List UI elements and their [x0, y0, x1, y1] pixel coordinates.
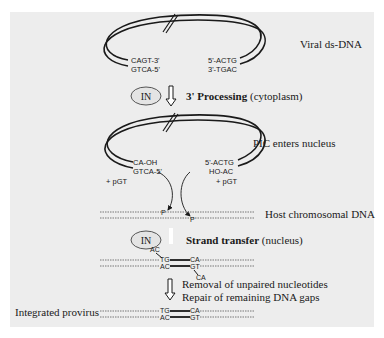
intermediate-viral-strands — [170, 260, 190, 266]
attack-arrow-right — [181, 172, 190, 216]
viral-left-top-seq: CAGT-3' — [131, 56, 160, 65]
phosphate-marker-bottom: P — [190, 216, 195, 223]
integrase-oval-1: IN — [131, 87, 161, 105]
pic-right-bottom-seq: HO-AC — [209, 167, 234, 176]
phosphate-marker-top: P — [161, 209, 166, 216]
step1-title-bold: 3' Processing — [186, 90, 248, 102]
pic-left-top-seq: CA-OH — [133, 158, 157, 167]
step2-title-bold: Strand transfer — [186, 234, 259, 246]
junction-left-top: TG — [160, 256, 170, 263]
junction-right-top: CA — [190, 256, 200, 263]
step3-line1: Removal of unpaired nucleotides — [182, 278, 328, 290]
viral-left-bottom-seq: GTCA-5' — [131, 65, 161, 74]
provirus-left-bottom: AC — [160, 314, 170, 321]
viral-dna-ring — [104, 15, 265, 66]
provirus-right-top: CA — [190, 307, 200, 314]
viral-dna-label: Viral ds-DNA — [300, 38, 362, 50]
step3-line2: Repair of remaining DNA gaps — [182, 291, 319, 303]
step1-title-rest: (cytoplasm) — [247, 90, 303, 103]
provirus-label: Integrated provirus — [15, 306, 99, 318]
provirus-right-bottom: GT — [190, 314, 200, 321]
junction-right-bottom: GT — [190, 263, 200, 270]
viral-right-top-seq: 5'-ACTG — [208, 56, 237, 65]
provirus-viral-strands — [170, 311, 190, 317]
attack-arrow-left — [158, 172, 172, 210]
left-pgt-byproduct: + pGT — [106, 177, 127, 186]
junction-left-bottom: AC — [160, 263, 170, 270]
overhang-top-seq: AC — [150, 246, 160, 253]
down-arrow-icon-1 — [166, 86, 176, 106]
pic-ring — [105, 115, 265, 168]
step1-title: 3' Processing (cytoplasm) — [186, 90, 303, 103]
step2-title: Strand transfer (nucleus) — [186, 234, 303, 247]
host-dna-strands — [100, 212, 254, 218]
host-dna-label: Host chromosomal DNA — [265, 208, 375, 220]
right-pgt-byproduct: + pGT — [216, 177, 237, 186]
integrase-label-1: IN — [141, 91, 152, 102]
strand-transfer-arrow-stub — [169, 228, 173, 244]
pic-right-top-seq: 5'-ACTG — [205, 158, 234, 167]
viral-right-bottom-seq: 3'-TGAC — [208, 65, 238, 74]
integrase-label-2: IN — [141, 235, 152, 246]
pic-label: PIC enters nucleus — [253, 137, 335, 149]
down-arrow-icon-2 — [165, 279, 175, 300]
step2-title-rest: (nucleus) — [259, 234, 303, 247]
integration-diagram: CAGT-3' GTCA-5' 5'-ACTG 3'-TGAC Viral ds… — [0, 0, 384, 338]
pic-left-bottom-seq: GTCA-5' — [133, 167, 163, 176]
provirus-left-top: TG — [160, 307, 170, 314]
